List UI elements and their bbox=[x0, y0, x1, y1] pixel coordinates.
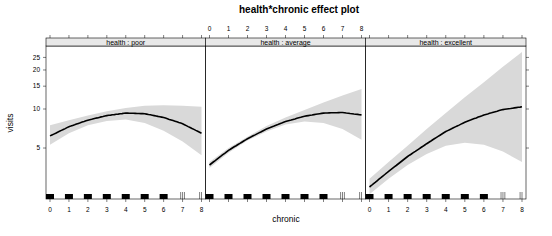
y-tick-label: 25 bbox=[33, 54, 41, 61]
rug-block bbox=[141, 194, 149, 199]
rug-block bbox=[301, 194, 309, 199]
x-tick-label-top: 3 bbox=[265, 25, 269, 32]
rug-block bbox=[385, 194, 393, 199]
x-tick-label: 4 bbox=[444, 206, 448, 213]
rug-block bbox=[244, 194, 252, 199]
y-axis-label: visits bbox=[5, 114, 15, 133]
confidence-band bbox=[210, 89, 362, 168]
x-tick-label: 5 bbox=[143, 206, 147, 213]
x-tick-label: 3 bbox=[425, 206, 429, 213]
x-tick-label-top: 0 bbox=[208, 25, 212, 32]
x-tick-label: 8 bbox=[520, 206, 524, 213]
x-tick-label-top: 8 bbox=[360, 25, 364, 32]
chart-title: health*chronic effect plot bbox=[239, 4, 360, 15]
rug-block bbox=[442, 194, 450, 199]
panel-average: health : average012345678 bbox=[206, 25, 366, 202]
x-tick-label: 5 bbox=[463, 206, 467, 213]
rug-block bbox=[122, 194, 130, 199]
rug-block bbox=[263, 194, 271, 199]
x-tick-label-top: 2 bbox=[246, 25, 250, 32]
panel-strip-label: health : poor bbox=[106, 39, 146, 47]
effect-plot: health*chronic effect plot health : poor… bbox=[0, 0, 552, 236]
y-tick-label: 15 bbox=[33, 82, 41, 89]
x-tick-label: 1 bbox=[387, 206, 391, 213]
panels-group: health : poor012345678health : average01… bbox=[33, 25, 529, 213]
rug-block bbox=[84, 194, 92, 199]
rug-block bbox=[404, 194, 412, 199]
rug-block bbox=[461, 194, 469, 199]
x-tick-label: 7 bbox=[181, 206, 185, 213]
y-tick-label: 5 bbox=[36, 144, 40, 151]
x-tick-label: 6 bbox=[162, 206, 166, 213]
rug-block bbox=[320, 194, 328, 199]
x-tick-label: 0 bbox=[368, 206, 372, 213]
x-tick-label: 6 bbox=[482, 206, 486, 213]
x-tick-label: 8 bbox=[200, 206, 204, 213]
rug-block bbox=[366, 194, 374, 199]
rug-block bbox=[423, 194, 431, 199]
rug-block bbox=[206, 194, 214, 199]
rug-block bbox=[282, 194, 290, 199]
x-tick-label: 7 bbox=[501, 206, 505, 213]
x-tick-label-top: 1 bbox=[227, 25, 231, 32]
rug-block bbox=[225, 194, 233, 199]
x-axis-label: chronic bbox=[272, 214, 300, 224]
x-tick-label: 4 bbox=[124, 206, 128, 213]
x-tick-label-top: 7 bbox=[341, 25, 345, 32]
x-tick-label: 2 bbox=[406, 206, 410, 213]
x-tick-label: 0 bbox=[48, 206, 52, 213]
panel-strip-label: health : average bbox=[260, 39, 310, 47]
rug-block bbox=[103, 194, 111, 199]
x-tick-label: 3 bbox=[105, 206, 109, 213]
x-tick-label-top: 4 bbox=[284, 25, 288, 32]
y-tick-label: 10 bbox=[33, 105, 41, 112]
x-tick-label-top: 5 bbox=[303, 25, 307, 32]
panel-strip-label: health : excellent bbox=[419, 39, 472, 46]
rug-block bbox=[480, 194, 488, 199]
rug-block bbox=[65, 194, 73, 199]
x-tick-label: 2 bbox=[86, 206, 90, 213]
panel-poor: health : poor012345678 bbox=[46, 35, 206, 213]
confidence-band bbox=[370, 52, 523, 194]
panel-excellent: health : excellent012345678 bbox=[366, 35, 527, 213]
x-tick-label-top: 6 bbox=[322, 25, 326, 32]
y-tick-label: 20 bbox=[33, 66, 41, 73]
rug-block bbox=[160, 194, 168, 199]
x-tick-label: 1 bbox=[67, 206, 71, 213]
rug-block bbox=[46, 194, 54, 199]
